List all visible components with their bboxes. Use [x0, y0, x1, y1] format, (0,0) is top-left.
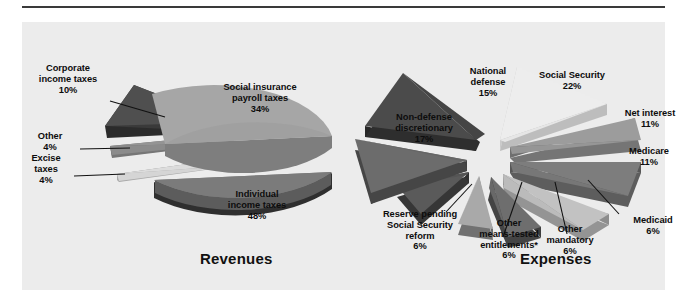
label-line: 6%: [372, 241, 468, 252]
label-line: defense: [455, 77, 521, 88]
label-line: Other: [26, 131, 74, 142]
label-line: 22%: [521, 81, 623, 92]
label-line: means-tested: [469, 229, 549, 240]
label-excise-taxes: Excise taxes 4%: [22, 153, 70, 185]
label-line: payroll taxes: [200, 93, 320, 104]
figure-root: Corporate income taxes 10% Other 4% Exci…: [0, 0, 687, 305]
label-social-security: Social Security 22%: [521, 70, 623, 92]
label-line: Medicare: [612, 146, 686, 157]
label-line: 15%: [455, 88, 521, 99]
label-medicare: Medicare 11%: [612, 146, 686, 168]
label-line: Corporate: [22, 63, 114, 74]
label-individual-income-taxes: Individual income taxes 48%: [202, 189, 312, 221]
label-line: taxes: [22, 164, 70, 175]
label-reserve-pending-social-security-reform: Reserve pending Social Security reform 6…: [372, 209, 468, 252]
label-other-revenue: Other 4%: [26, 131, 74, 153]
label-line: 4%: [22, 175, 70, 186]
figure-panel: Corporate income taxes 10% Other 4% Exci…: [22, 22, 665, 290]
label-line: income taxes: [202, 200, 312, 211]
label-line: 10%: [22, 85, 114, 96]
label-national-defense: National defense 15%: [455, 66, 521, 98]
label-line: 11%: [610, 119, 687, 130]
label-line: discretionary: [378, 123, 470, 134]
label-net-interest: Net interest 11%: [610, 108, 687, 130]
label-line: income taxes: [22, 74, 114, 85]
label-line: National: [455, 66, 521, 77]
label-line: Other: [469, 218, 549, 229]
label-line: Social Security: [372, 220, 468, 231]
label-line: Reserve pending: [372, 209, 468, 220]
revenues-caption: Revenues: [200, 250, 272, 267]
label-line: Net interest: [610, 108, 687, 119]
label-line: Individual: [202, 189, 312, 200]
label-line: entitlements*: [469, 240, 549, 251]
label-line: 6%: [616, 226, 687, 237]
expenses-caption: Expenses: [520, 250, 592, 267]
label-line: reform: [372, 231, 468, 242]
label-line: Social Security: [521, 70, 623, 81]
label-line: Social insurance: [200, 82, 320, 93]
label-line: 48%: [202, 211, 312, 222]
label-line: Medicaid: [616, 215, 687, 226]
top-divider-rule: [22, 6, 665, 8]
label-non-defense-discretionary: Non-defense discretionary 17%: [378, 112, 470, 144]
label-line: 11%: [612, 157, 686, 168]
label-line: Excise: [22, 153, 70, 164]
label-line: 17%: [378, 134, 470, 145]
label-medicaid: Medicaid 6%: [616, 215, 687, 237]
label-line: Non-defense: [378, 112, 470, 123]
label-line: 4%: [26, 142, 74, 153]
label-corporate-income-taxes: Corporate income taxes 10%: [22, 63, 114, 95]
label-line: 34%: [200, 104, 320, 115]
label-social-insurance-payroll-taxes: Social insurance payroll taxes 34%: [200, 82, 320, 114]
